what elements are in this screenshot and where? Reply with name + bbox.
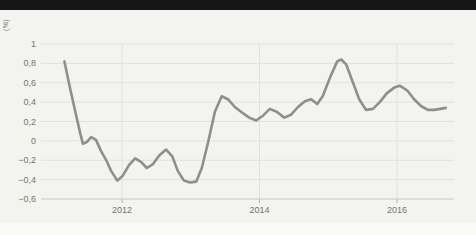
y-tick-label: 0,2	[23, 117, 36, 127]
x-tick-label: 2016	[387, 205, 407, 215]
x-tick-label: 2012	[112, 205, 132, 215]
y-tick-label: 0,8	[23, 58, 36, 68]
x-tick-label: 2014	[250, 205, 270, 215]
line-chart: 10,80,60,40,20−0,2−0,4−0,6201220142016	[0, 0, 476, 235]
y-tick-label: −0,4	[18, 175, 36, 185]
y-tick-label: −0,6	[18, 194, 36, 204]
y-tick-label: 0	[31, 136, 36, 146]
bottom-strip	[0, 223, 476, 235]
y-tick-label: −0,2	[18, 155, 36, 165]
y-tick-label: 1	[31, 39, 36, 49]
y-tick-label: 0,4	[23, 97, 36, 107]
y-tick-label: 0,6	[23, 78, 36, 88]
